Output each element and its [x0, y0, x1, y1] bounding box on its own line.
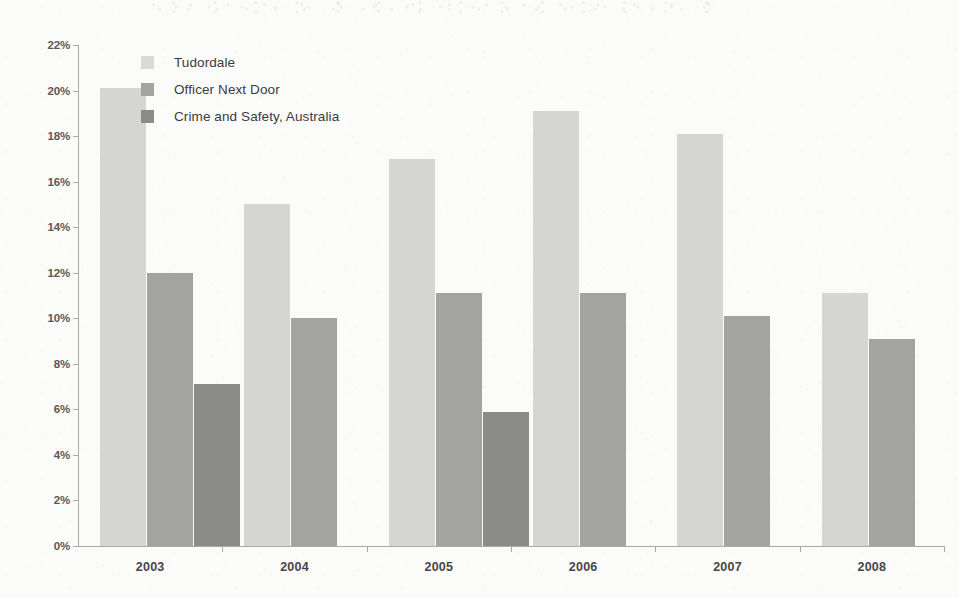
- x-axis-tick-mark: [222, 546, 223, 552]
- y-axis-tick-label: 16%: [48, 176, 70, 188]
- y-axis-tick-label: 18%: [48, 130, 70, 142]
- bar: [389, 159, 435, 546]
- y-axis-tick-label: 10%: [48, 312, 70, 324]
- x-axis-tick-label: 2005: [425, 560, 454, 574]
- y-axis-tick-label: 14%: [48, 221, 70, 233]
- bar: [580, 293, 626, 546]
- legend-item: Crime and Safety, Australia: [141, 103, 471, 130]
- legend-color-swatch: [141, 110, 154, 123]
- x-axis-tick-mark: [367, 546, 368, 552]
- bar: [869, 339, 915, 546]
- legend-color-swatch: [141, 56, 154, 69]
- y-axis-tick-label: 12%: [48, 267, 70, 279]
- y-axis-tick-label: 20%: [48, 85, 70, 97]
- bar: [533, 111, 579, 546]
- bar: [100, 88, 146, 546]
- legend-item: Officer Next Door: [141, 76, 471, 103]
- bar: [677, 134, 723, 546]
- x-axis-tick-label: 2008: [858, 560, 887, 574]
- bar: [244, 204, 290, 546]
- bar: [291, 318, 337, 546]
- legend-item-label: Tudordale: [174, 55, 235, 70]
- bar: [194, 384, 240, 546]
- legend-item-label: Officer Next Door: [174, 82, 280, 97]
- scan-noise-artifact: [150, 0, 710, 14]
- y-axis-tick-label: 4%: [54, 449, 70, 461]
- legend-item-label: Crime and Safety, Australia: [174, 109, 339, 124]
- bar: [822, 293, 868, 546]
- x-axis-tick-mark: [655, 546, 656, 552]
- legend-item: Tudordale: [141, 49, 471, 76]
- x-axis-tick-label: 2003: [136, 560, 165, 574]
- legend-color-swatch: [141, 83, 154, 96]
- bar-chart: 0%2%4%6%8%10%12%14%16%18%20%22% 20032004…: [0, 0, 959, 598]
- bar: [483, 412, 529, 546]
- y-axis-tick-label: 22%: [48, 39, 70, 51]
- y-axis-tick-label: 2%: [54, 494, 70, 506]
- y-axis-tick-mark: [73, 546, 78, 547]
- y-axis-tick-label: 8%: [54, 358, 70, 370]
- y-axis-tick-label: 0%: [54, 540, 70, 552]
- x-axis-tick-label: 2004: [280, 560, 309, 574]
- bar: [436, 293, 482, 546]
- bar: [147, 273, 193, 546]
- chart-legend: TudordaleOfficer Next DoorCrime and Safe…: [141, 49, 471, 130]
- x-axis-tick-label: 2006: [569, 560, 598, 574]
- x-axis-tick-mark: [944, 546, 945, 552]
- y-axis-tick-label: 6%: [54, 403, 70, 415]
- x-axis-tick-mark: [800, 546, 801, 552]
- x-axis-tick-label: 2007: [713, 560, 742, 574]
- x-axis-tick-mark: [511, 546, 512, 552]
- bar: [724, 316, 770, 546]
